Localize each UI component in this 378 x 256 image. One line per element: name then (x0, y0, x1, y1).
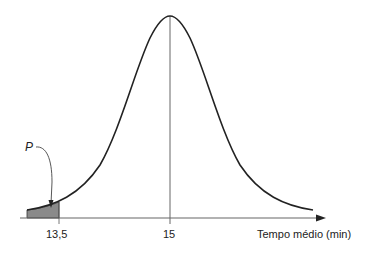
p-pointer-arrow (36, 147, 52, 204)
p-label: P (25, 140, 33, 154)
tick-label-15: 15 (163, 228, 175, 240)
x-axis-arrow-icon (316, 215, 326, 222)
tick-label-13-5: 13,5 (46, 228, 67, 240)
normal-curve-chart (0, 0, 378, 256)
x-axis-label: Tempo médio (min) (257, 228, 351, 240)
